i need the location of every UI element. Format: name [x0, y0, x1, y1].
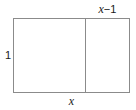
outer-rectangle [13, 18, 130, 93]
label-bottom-side: x [13, 95, 130, 107]
inner-divider-line [85, 18, 86, 93]
label-top-right-segment: x−1 [85, 3, 130, 15]
label-top-right-segment-rest: −1 [104, 3, 117, 15]
label-left-side: 1 [3, 49, 13, 61]
geometry-figure: x−1 1 x [0, 0, 136, 110]
variable-x-bottom: x [69, 94, 74, 108]
